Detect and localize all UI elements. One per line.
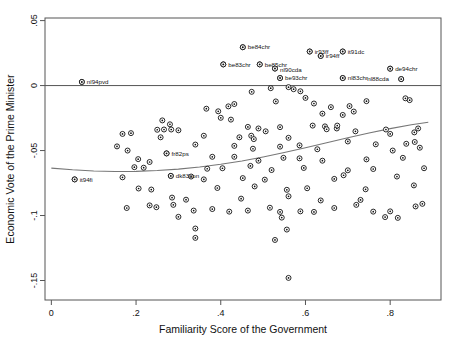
data-point-center <box>134 166 136 168</box>
data-point-center <box>193 210 195 212</box>
data-point-center <box>250 135 252 137</box>
data-point-center <box>413 132 415 134</box>
data-point-center <box>220 117 222 119</box>
data-point-center <box>217 110 219 112</box>
data-point-center <box>156 129 158 131</box>
data-point-center <box>385 129 387 131</box>
data-point-center <box>258 160 260 162</box>
data-point-center <box>217 187 219 189</box>
data-point-center <box>326 128 328 130</box>
point-label: be84chr <box>248 43 270 50</box>
labeled-data-point-center <box>274 68 276 70</box>
data-point-center <box>397 217 399 219</box>
data-point-center <box>283 157 285 159</box>
data-point-center <box>211 208 213 210</box>
point-label: ir94ff <box>326 52 340 59</box>
labeled-data-point-center <box>400 78 402 80</box>
labeled-data-point-center <box>222 63 224 65</box>
data-point-center <box>149 205 151 207</box>
data-point-center <box>195 228 197 230</box>
y-tick-label: 0 <box>29 83 39 88</box>
data-point-center <box>355 204 357 206</box>
point-label: nl83chr <box>348 74 368 81</box>
x-tick-label: .4 <box>217 308 225 318</box>
data-point-center <box>422 203 424 205</box>
data-point-center <box>264 179 266 181</box>
data-point-center <box>305 97 307 99</box>
y-tick-label: -.1 <box>29 210 39 221</box>
data-point-center <box>240 198 242 200</box>
data-point-center <box>116 146 118 148</box>
data-point-center <box>195 237 197 239</box>
data-point-center <box>414 141 416 143</box>
data-point-center <box>372 168 374 170</box>
data-point-center <box>206 168 208 170</box>
data-point-center <box>126 207 128 209</box>
data-point-center <box>320 200 322 202</box>
data-point-center <box>286 189 288 191</box>
data-point-center <box>171 197 173 199</box>
data-point-center <box>316 148 318 150</box>
data-point-center <box>163 129 165 131</box>
data-point-center <box>353 111 355 113</box>
data-point-center <box>150 189 152 191</box>
data-point-center <box>366 159 368 161</box>
data-point-center <box>269 207 271 209</box>
data-point-center <box>288 195 290 197</box>
x-axis: 0.2.4.6.8 <box>49 300 394 318</box>
data-point-center <box>423 167 425 169</box>
data-point-center <box>211 156 213 158</box>
y-tick-label: .05 <box>29 14 39 27</box>
data-point-center <box>161 120 163 122</box>
data-point-center <box>178 129 180 131</box>
data-point-center <box>347 141 349 143</box>
data-point-center <box>303 167 305 169</box>
data-point-center <box>233 103 235 105</box>
data-point-center <box>360 199 362 201</box>
point-label: nl88cda <box>367 75 389 82</box>
data-point-center <box>336 125 338 127</box>
data-point-center <box>156 206 158 208</box>
x-tick-label: .2 <box>132 308 140 318</box>
data-point-center <box>417 128 419 130</box>
data-point-center <box>195 144 197 146</box>
data-point-center <box>389 211 391 213</box>
data-point-center <box>265 130 267 132</box>
data-point-center <box>254 186 256 188</box>
labeled-data-point-center <box>74 178 76 180</box>
data-point-center <box>247 126 249 128</box>
data-point-center <box>143 167 145 169</box>
data-point-center <box>396 176 398 178</box>
labeled-data-point-center <box>342 77 344 79</box>
data-point-center <box>239 136 241 138</box>
labeled-data-point-center <box>259 63 261 65</box>
data-point-center <box>233 156 235 158</box>
data-point-center <box>172 204 174 206</box>
y-axis: .050-.05-.1-.15 <box>29 14 45 288</box>
data-point-center <box>402 157 404 159</box>
data-point-center <box>251 91 253 93</box>
data-point-center <box>312 125 314 127</box>
data-point-center <box>389 133 391 135</box>
labeled-data-point-center <box>389 68 391 70</box>
data-point-center <box>409 99 411 101</box>
data-point-center <box>405 97 407 99</box>
data-point-center <box>288 137 290 139</box>
labeled-data-point-center <box>81 81 83 83</box>
data-point-center <box>413 185 415 187</box>
labeled-data-point-center <box>279 77 281 79</box>
data-point-center <box>300 90 302 92</box>
data-point-center <box>392 150 394 152</box>
data-point-center <box>275 101 277 103</box>
data-point-center <box>138 188 140 190</box>
point-label: dk83con <box>176 172 200 179</box>
data-point-center <box>299 158 301 160</box>
plot-canvas: .050-.05-.1-.150.2.4.6.8Familiarity Scor… <box>0 0 453 340</box>
data-point-center <box>384 216 386 218</box>
data-point-center <box>270 87 272 89</box>
data-point-center <box>203 135 205 137</box>
data-point-center <box>258 128 260 130</box>
data-point-center <box>322 160 324 162</box>
data-point-center <box>137 158 139 160</box>
point-label: be83chr <box>228 61 250 68</box>
